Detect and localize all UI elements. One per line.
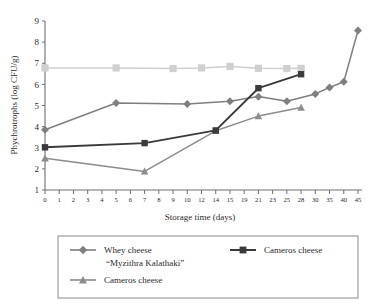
y-tick-label: 4 (35, 122, 40, 132)
y-tick-label: 5 (35, 101, 40, 111)
x-tick-label: 45 (355, 196, 362, 203)
y-tick-label: 7 (35, 58, 40, 68)
y-tick-label: 6 (35, 80, 40, 90)
x-tick-label: 14 (212, 196, 219, 203)
x-tick-label: 12 (198, 196, 205, 203)
data-point (226, 63, 233, 70)
y-tick-label: 9 (35, 16, 40, 26)
data-point (141, 140, 147, 146)
psychrotrophs-line-chart: 123456789 012345678910121415192123252830… (0, 0, 375, 304)
data-point (297, 65, 304, 72)
x-tick-label: 19 (241, 196, 248, 203)
y-tick-label: 2 (35, 164, 40, 174)
x-tick-label: 28 (298, 196, 305, 203)
data-point (298, 71, 304, 77)
x-axis-title: Storage time (days) (165, 212, 235, 222)
data-point (255, 65, 262, 72)
x-tick-label: 15 (227, 196, 234, 203)
data-point (198, 64, 205, 71)
x-tick-label: 2 (72, 196, 75, 203)
x-tick-label: 35 (326, 196, 333, 203)
data-point (169, 65, 176, 72)
chart-figure: 123456789 012345678910121415192123252830… (0, 0, 375, 304)
x-tick-label: 23 (269, 196, 276, 203)
chart-legend: Whey cheese“Myzithra Kalathaki”Cameros c… (58, 236, 358, 298)
x-tick-label: 30 (312, 196, 319, 203)
data-point (255, 85, 261, 91)
y-tick-label: 1 (35, 185, 40, 195)
y-axis-title: Phychrotrophs (log CFU/g) (9, 55, 19, 154)
x-tick-label: 40 (340, 196, 347, 203)
data-point (213, 127, 219, 133)
data-point (283, 65, 290, 72)
x-tick-label: 1 (58, 196, 61, 203)
x-tick-label: 21 (255, 196, 262, 203)
legend-label-line2: “Myzithra Kalathaki” (106, 258, 184, 268)
x-tick-label: 10 (184, 196, 191, 203)
x-tick-label: 25 (284, 196, 291, 203)
legend-marker (240, 247, 247, 254)
y-tick-label: 3 (35, 143, 40, 153)
data-point (41, 64, 48, 71)
legend-label: Cameros cheese (104, 275, 162, 285)
legend-label: Cameros cheese (264, 245, 322, 255)
data-point (113, 64, 120, 71)
data-point (42, 144, 48, 150)
legend-label: Whey cheese (104, 245, 152, 255)
y-tick-label: 8 (35, 37, 40, 47)
